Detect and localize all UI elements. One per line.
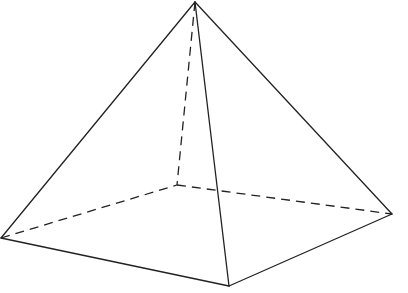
edge-left-back-hidden [1,185,177,238]
edge-back-right-hidden [177,185,392,214]
edge-apex-back-hidden [177,2,195,185]
edge-left-front [1,238,229,286]
edge-front-right [229,214,392,286]
edge-apex-right [195,2,392,214]
edge-apex-left [1,2,195,238]
hidden-edges [1,2,392,238]
visible-edges [1,2,392,286]
square-pyramid-diagram [0,0,408,293]
edge-apex-front [195,2,229,286]
